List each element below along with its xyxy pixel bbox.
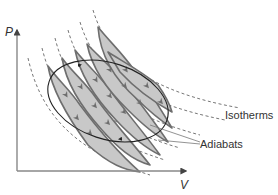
y-axis-label: P [5,26,13,38]
isotherms-label: Isotherms [225,110,273,121]
adiabats-label: Adiabats [200,139,243,150]
adiabat-cycles [48,27,172,172]
x-axis-label: V [180,179,188,191]
pv-diagram [0,0,278,195]
